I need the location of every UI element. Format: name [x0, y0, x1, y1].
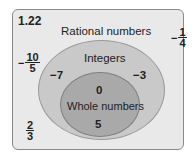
sign: −: [18, 57, 24, 69]
whole-numbers-label: Whole numbers: [67, 100, 144, 112]
sign: −: [171, 32, 177, 44]
denominator: 5: [30, 63, 36, 73]
fraction-two-thirds: 23: [25, 120, 34, 141]
fraction-neg-one-quarter: − 14: [171, 27, 187, 48]
integer-neg-three: −3: [133, 69, 146, 81]
figure-number: 1.22: [18, 14, 41, 28]
whole-five: 5: [95, 118, 101, 130]
whole-zero: 0: [96, 84, 102, 96]
integer-neg-seven: −7: [50, 69, 63, 81]
denominator: 3: [27, 131, 33, 141]
fraction-neg-ten-fifths: − 105: [18, 52, 40, 73]
rational-numbers-label: Rational numbers: [61, 25, 151, 37]
integers-label: Integers: [84, 52, 126, 64]
denominator: 4: [179, 38, 185, 48]
